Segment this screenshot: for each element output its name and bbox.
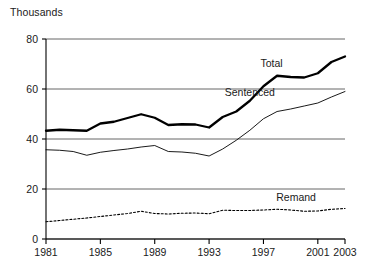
chart-page: Thousands 020406080 19811985198919931997… bbox=[0, 0, 366, 270]
x-tick-label: 1993 bbox=[197, 246, 221, 258]
series-line-remand bbox=[46, 209, 345, 222]
x-tick-label: 2001 bbox=[306, 246, 330, 258]
x-tick-label: 1989 bbox=[143, 246, 167, 258]
x-tick-label: 1997 bbox=[252, 246, 276, 258]
x-tick-label: 1981 bbox=[34, 246, 58, 258]
series-label-remand: Remand bbox=[276, 191, 316, 203]
series-labels: TotalSentencedRemand bbox=[225, 57, 316, 203]
y-tick-label: 40 bbox=[26, 133, 38, 145]
y-tick-label: 80 bbox=[26, 33, 38, 45]
line-chart: 020406080 1981198519891993199720012003 T… bbox=[0, 0, 366, 270]
series-line-total bbox=[46, 57, 345, 131]
y-axis: 020406080 bbox=[26, 33, 46, 245]
x-tick-label: 2003 bbox=[333, 246, 357, 258]
y-tick-label: 60 bbox=[26, 83, 38, 95]
gridlines bbox=[46, 39, 345, 239]
series-label-sentenced: Sentenced bbox=[225, 86, 275, 98]
y-tick-label: 0 bbox=[32, 233, 38, 245]
series-label-total: Total bbox=[261, 57, 283, 69]
x-axis: 1981198519891993199720012003 bbox=[34, 239, 357, 258]
x-tick-label: 1985 bbox=[89, 246, 113, 258]
y-tick-label: 20 bbox=[26, 183, 38, 195]
